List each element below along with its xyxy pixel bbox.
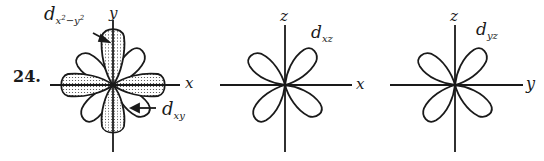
problem-number: 24.: [13, 69, 41, 85]
label-dxz: dxz: [311, 24, 333, 41]
label-dx2y2-sub: x2−y2: [56, 15, 85, 26]
sup-2b: 2: [80, 14, 84, 22]
diagram-dxz: [220, 25, 352, 152]
label-dyz: dyz: [476, 21, 498, 38]
label-dxz-sub: xz: [322, 33, 333, 44]
label-dyz-sub: yz: [487, 30, 498, 41]
axis-label-x: x: [185, 76, 193, 91]
sub-minus-y: −y: [66, 15, 80, 26]
axis-label-y: y: [526, 76, 535, 92]
axis-label-z: z: [280, 9, 288, 24]
diagram-dxy-dx2y2: [50, 20, 180, 152]
label-dyz-main: d: [476, 19, 487, 39]
label-dxz-main: d: [311, 22, 322, 42]
label-dxy-sub: xy: [174, 110, 185, 121]
axis-label-y: y: [109, 6, 117, 21]
label-dxy-main: d: [162, 98, 174, 119]
diagram-dyz: [390, 25, 523, 152]
axis-label-z: z: [450, 9, 458, 24]
label-dx2y2-main: d: [44, 3, 56, 24]
axis-label-x: x: [356, 77, 364, 92]
label-dxy: dxy: [162, 100, 185, 118]
label-dx2y2: dx2−y2: [44, 5, 84, 23]
sup-2a: 2: [61, 14, 65, 22]
